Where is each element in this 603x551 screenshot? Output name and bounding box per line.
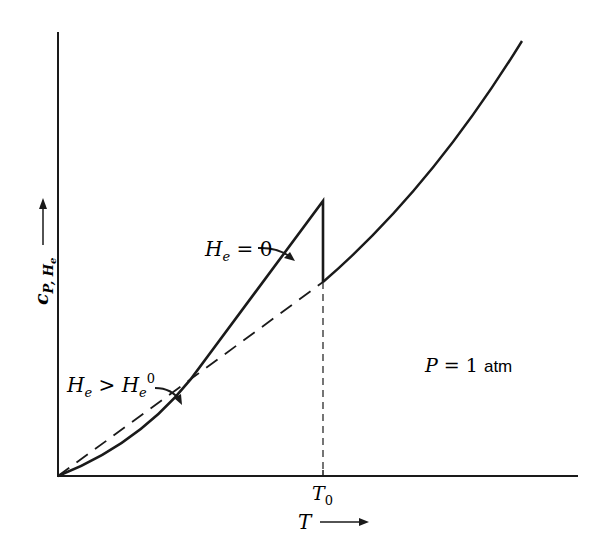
specific-heat-diagram: He = 0 He > He0 P = 1 atm T0 T cP, He (0, 0, 603, 551)
pressure-label: P = 1 atm (424, 354, 512, 376)
x-axis-arrowhead (359, 518, 369, 526)
he-normal-label: He > He0 (66, 371, 155, 400)
y-axis-label: cP, He (30, 258, 58, 305)
superconducting-curve (58, 201, 323, 476)
t0-tick-label: T0 (312, 482, 333, 508)
y-axis-arrowhead (39, 198, 47, 209)
normal-curve-solid (323, 41, 522, 282)
he-zero-label: He = 0 (204, 237, 272, 264)
x-axis-label: T (298, 510, 313, 534)
diagram-canvas: He = 0 He > He0 P = 1 atm T0 T cP, He (0, 0, 603, 551)
svg-text:cP, He: cP, He (30, 258, 58, 305)
